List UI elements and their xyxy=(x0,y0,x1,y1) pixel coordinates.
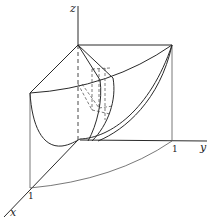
right-parabola xyxy=(80,45,172,139)
diagram-canvas: z y x 1 1 xyxy=(0,0,215,218)
left-parabola xyxy=(30,93,80,146)
x-tick-one: 1 xyxy=(28,191,34,201)
inner-curve-2 xyxy=(92,78,114,141)
dashed-diagonal-1 xyxy=(78,84,92,110)
y-axis-label: y xyxy=(199,141,207,154)
base-arc xyxy=(30,141,172,188)
y-tick-one: 1 xyxy=(172,144,178,154)
x-axis-label: x xyxy=(10,206,17,218)
dashed-diagonal-2 xyxy=(82,84,99,108)
apex-to-left-edge xyxy=(30,45,78,93)
inner-curve-3 xyxy=(98,45,172,141)
dashed-horizontal-top xyxy=(92,68,110,69)
dashed-bottom xyxy=(92,110,110,114)
z-axis-label: z xyxy=(69,2,76,15)
